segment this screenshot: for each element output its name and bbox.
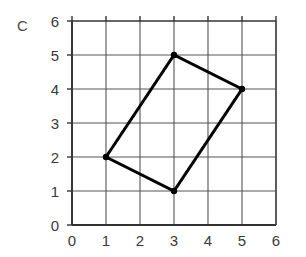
x-tick-label: 4 — [204, 232, 212, 249]
panel-label: C — [17, 17, 28, 34]
y-tick-label: 1 — [51, 183, 59, 200]
y-tick-label: 2 — [51, 149, 59, 166]
vertex-marker — [239, 86, 245, 92]
y-tick-label: 4 — [51, 81, 59, 98]
x-tick-label: 1 — [102, 232, 110, 249]
vertex-marker — [171, 52, 177, 58]
y-tick-label: 5 — [51, 47, 59, 64]
y-tick-label: 3 — [51, 115, 59, 132]
x-tick-label: 2 — [136, 232, 144, 249]
x-tick-label: 0 — [68, 232, 76, 249]
chart-canvas: 01234560123456C — [0, 0, 306, 257]
figure-background — [0, 0, 306, 257]
vertex-marker — [103, 154, 109, 160]
y-tick-label: 0 — [51, 217, 59, 234]
coordinate-grid-figure: 01234560123456C — [0, 0, 306, 257]
x-tick-label: 6 — [272, 232, 280, 249]
x-tick-label: 5 — [238, 232, 246, 249]
vertex-marker — [171, 188, 177, 194]
x-tick-label: 3 — [170, 232, 178, 249]
y-tick-label: 6 — [51, 13, 59, 30]
